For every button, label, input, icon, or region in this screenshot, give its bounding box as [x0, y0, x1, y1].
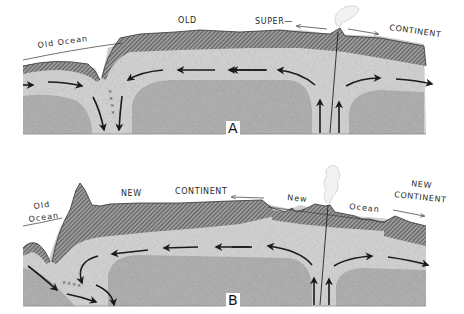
panel-b: ×××× Old Ocean NEW CONTINENT New Ocean N… [23, 166, 447, 309]
panel-a: ×××× Old Ocean OLD SUPER— CONTINENT A [23, 6, 442, 136]
spreading-arrow-left-b [232, 197, 264, 198]
lower-mantle-a-right [349, 90, 424, 134]
volcano-plume-b [324, 166, 340, 205]
label-new-continent-left-1: NEW [121, 189, 142, 198]
label-new-ocean-1: New [287, 193, 308, 204]
svg-text:×: × [72, 281, 76, 287]
svg-text:×: × [110, 102, 114, 108]
label-old-ocean-a: Old Ocean [37, 34, 88, 50]
label-new-continent-right-2: CONTINENT [394, 190, 447, 204]
diagram-canvas: ×××× Old Ocean OLD SUPER— CONTINENT A [0, 0, 464, 314]
label-new-continent-right-1: NEW [411, 179, 433, 190]
svg-text:×: × [109, 95, 113, 101]
convection-arrow [164, 247, 198, 248]
panel-letter-a: A [228, 120, 238, 136]
svg-text:×: × [108, 88, 112, 94]
label-old-b: Old [33, 200, 51, 211]
label-new-continent-left-2: CONTINENT [175, 187, 227, 196]
panel-letter-b: B [228, 292, 238, 308]
volcano-plume-a [335, 6, 359, 28]
label-super-a: SUPER— [255, 17, 293, 26]
lower-mantle-b-center [108, 255, 312, 306]
spreading-arrow-right-b [393, 210, 424, 216]
label-continent-a: CONTINENT [389, 23, 442, 39]
svg-text:×: × [62, 279, 66, 285]
label-old-a: OLD [178, 16, 197, 25]
spreading-arrow-right-a [348, 29, 378, 34]
label-new-ocean-2: Ocean [349, 202, 380, 214]
spreading-arrow-left-a [297, 26, 327, 29]
lower-mantle-b-right [336, 268, 426, 306]
svg-text:×: × [77, 282, 81, 288]
lower-mantle-a-center [132, 80, 312, 134]
svg-text:×: × [111, 109, 115, 115]
svg-text:×: × [67, 280, 71, 286]
